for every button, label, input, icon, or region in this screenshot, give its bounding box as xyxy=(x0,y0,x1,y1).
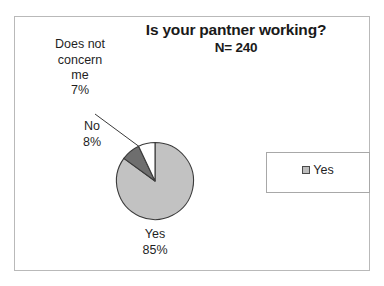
legend-swatch-icon xyxy=(302,166,310,174)
chart-legend: Yes xyxy=(266,152,370,193)
leader-line-does-not-concern-me xyxy=(95,114,139,146)
legend-item-label: Yes xyxy=(313,163,333,177)
pie-label-dnc-percent: 7% xyxy=(37,83,123,98)
pie-chart-graphic xyxy=(87,112,207,232)
pie-label-dnc-name: Does not concern me xyxy=(55,37,105,82)
pie-label-does-not-concern-me: Does not concern me 7% xyxy=(37,22,123,114)
chart-subtitle-sample-size: N= 240 xyxy=(111,40,361,55)
pie-slices xyxy=(116,143,193,220)
chart-title: Is your pantner working? xyxy=(111,21,361,39)
legend-item-yes[interactable]: Yes xyxy=(267,163,369,177)
chart-frame: Is your pantner working? N= 240 Does not… xyxy=(14,16,370,271)
pie-label-yes-percent: 85% xyxy=(119,243,191,258)
